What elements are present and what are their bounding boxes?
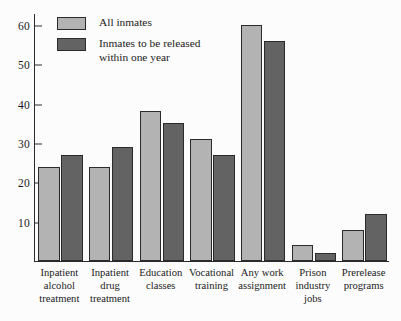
bar xyxy=(264,41,286,261)
y-axis-tick xyxy=(35,143,42,144)
legend-label-line: within one year xyxy=(99,51,201,65)
legend-label: All inmates xyxy=(99,16,152,30)
x-axis-category-label: Prereleaseprograms xyxy=(332,266,395,292)
x-axis-labels: InpatientalcoholtreatmentInpatientdrugtr… xyxy=(34,266,389,321)
bar xyxy=(190,139,212,261)
chart-legend: All inmatesInmates to be releasedwithin … xyxy=(57,16,201,71)
bar xyxy=(112,147,134,261)
bar xyxy=(140,111,162,261)
bar xyxy=(89,167,111,261)
legend-label: Inmates to be releasedwithin one year xyxy=(99,37,201,64)
y-axis-tick xyxy=(35,25,42,26)
x-axis-label-line: treatment xyxy=(79,292,142,305)
y-axis-tick-label: 20 xyxy=(4,178,30,190)
x-axis-label-line: Prerelease xyxy=(332,266,395,279)
bar xyxy=(365,214,387,261)
x-axis-label-line: programs xyxy=(332,279,395,292)
legend-swatch xyxy=(57,17,86,30)
y-axis-tick-label: 30 xyxy=(4,138,30,150)
bar xyxy=(342,230,364,261)
legend-label-line: All inmates xyxy=(99,16,152,30)
y-axis-tick xyxy=(35,65,42,66)
y-axis-tick-label: 10 xyxy=(4,217,30,229)
y-axis-labels: 102030405060 xyxy=(0,14,30,262)
y-axis-tick xyxy=(35,104,42,105)
bar xyxy=(38,167,60,261)
legend-item: Inmates to be releasedwithin one year xyxy=(57,37,201,64)
y-axis-tick-label: 60 xyxy=(4,20,30,32)
bar xyxy=(292,245,314,261)
bar xyxy=(61,155,83,261)
bar xyxy=(163,123,185,261)
bar xyxy=(241,25,263,261)
legend-swatch xyxy=(57,38,86,51)
legend-item: All inmates xyxy=(57,16,201,30)
bar-chart: 102030405060 InpatientalcoholtreatmentIn… xyxy=(0,0,401,321)
legend-label-line: Inmates to be released xyxy=(99,37,201,51)
y-axis-tick-label: 50 xyxy=(4,60,30,72)
bar xyxy=(213,155,235,261)
bar xyxy=(315,253,337,261)
x-axis-label-line: jobs xyxy=(282,292,345,305)
y-axis-tick-label: 40 xyxy=(4,99,30,111)
